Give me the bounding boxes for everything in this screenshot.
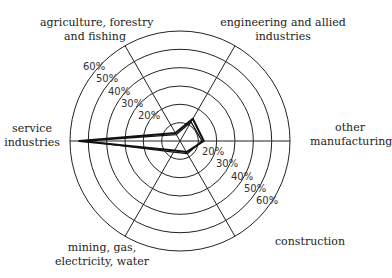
ring-tick-lr-30: 30% [216, 158, 238, 169]
axis-label-line: construction [270, 235, 350, 249]
axis-label-line: agriculture, forestry [40, 16, 150, 30]
spoke-2 [180, 46, 235, 141]
ring-tick-lr-50: 50% [244, 183, 266, 194]
axis-label-line: manufacturing [310, 135, 390, 149]
axis-label-line: mining, gas, [52, 241, 152, 255]
label-other-manufacturing: othermanufacturing [310, 121, 390, 149]
axis-label-line: and fishing [40, 30, 150, 44]
axis-label-line: other [310, 121, 390, 135]
ring-tick-ul-30: 30% [121, 98, 143, 109]
axis-label-line: engineering and allied [218, 16, 348, 30]
axis-label-line: service [2, 122, 62, 136]
label-engineering: engineering and alliedindustries [218, 16, 348, 44]
ring-tick-ul-60: 60% [83, 61, 105, 72]
label-mining: mining, gas,electricity, water [52, 241, 152, 269]
label-agriculture: agriculture, forestryand fishing [40, 16, 150, 44]
ring-tick-lr-20: 20% [202, 146, 224, 157]
spoke-5 [125, 141, 180, 236]
data-series [79, 119, 204, 154]
axis-label-line: industries [218, 30, 348, 44]
label-construction: construction [270, 235, 350, 249]
ring-tick-lr-60: 60% [256, 195, 278, 206]
ring-tick-lr-40: 40% [231, 171, 253, 182]
axis-label-line: electricity, water [52, 255, 152, 269]
ring-tick-ul-50: 50% [96, 73, 118, 84]
label-service-industries: serviceindustries [2, 122, 62, 150]
spoke-1 [125, 46, 180, 141]
ring-tick-ul-20: 20% [138, 110, 160, 121]
ring-tick-ul-40: 40% [108, 86, 130, 97]
axis-label-line: industries [2, 136, 62, 150]
